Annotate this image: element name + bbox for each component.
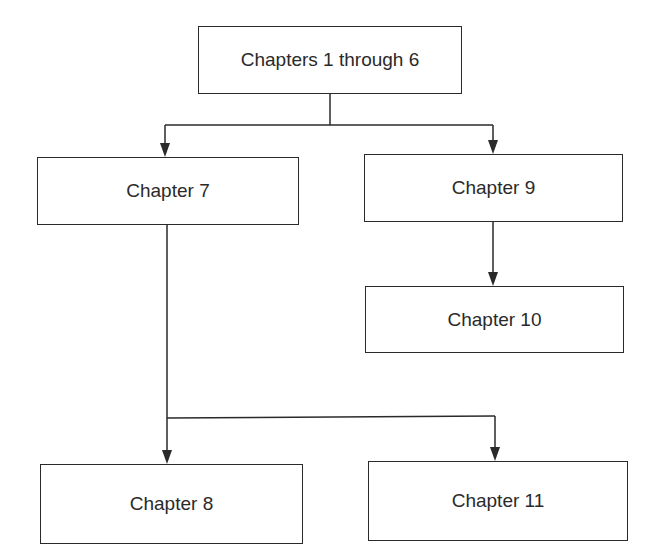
arrowhead-icon bbox=[488, 140, 498, 154]
node-label: Chapter 7 bbox=[126, 180, 209, 202]
node-chapter-10: Chapter 10 bbox=[365, 286, 624, 353]
arrowhead-icon bbox=[488, 272, 498, 286]
node-chapter-7: Chapter 7 bbox=[37, 157, 299, 225]
arrowhead-icon bbox=[160, 143, 170, 157]
arrowhead-icon bbox=[162, 450, 172, 464]
edge-branch-bottom bbox=[167, 416, 495, 418]
node-chapter-11: Chapter 11 bbox=[368, 461, 628, 541]
node-chapter-8: Chapter 8 bbox=[40, 464, 303, 544]
node-label: Chapter 10 bbox=[447, 309, 541, 331]
node-chapter-9: Chapter 9 bbox=[364, 154, 623, 222]
node-label: Chapters 1 through 6 bbox=[241, 49, 420, 71]
node-label: Chapter 9 bbox=[452, 177, 535, 199]
node-label: Chapter 8 bbox=[130, 493, 213, 515]
arrowhead-icon bbox=[490, 447, 500, 461]
node-label: Chapter 11 bbox=[452, 490, 545, 512]
node-chapters-1-6: Chapters 1 through 6 bbox=[198, 26, 462, 94]
